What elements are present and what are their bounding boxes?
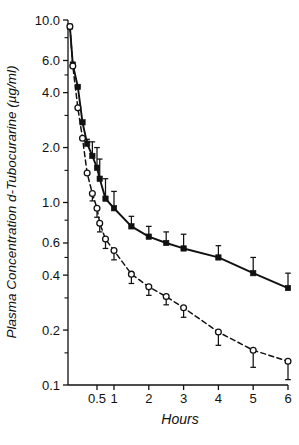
- data-point-marker: [90, 153, 95, 158]
- y-tick-label: 0.2: [42, 323, 60, 338]
- data-point-marker: [103, 236, 109, 242]
- data-point-marker: [181, 305, 187, 311]
- data-point-marker: [94, 205, 100, 211]
- x-tick-label: 0.5: [88, 391, 106, 406]
- data-point-marker: [89, 191, 95, 197]
- y-tick-label: 0.6: [42, 235, 60, 250]
- y-tick-label: 0.1: [42, 378, 60, 393]
- data-point-marker: [75, 105, 81, 111]
- data-point-marker: [216, 255, 221, 260]
- data-point-marker: [84, 141, 89, 146]
- data-point-marker: [250, 347, 256, 353]
- y-tick-label: 2.0: [42, 140, 60, 155]
- x-tick-label: 3: [180, 391, 187, 406]
- y-tick-label: 6.0: [42, 53, 60, 68]
- x-axis-title: Hours: [161, 411, 198, 427]
- x-tick-label: 6: [284, 391, 291, 406]
- x-tick-label: 1: [110, 391, 117, 406]
- data-point-marker: [97, 176, 102, 181]
- data-point-marker: [67, 24, 73, 30]
- data-point-marker: [80, 135, 86, 141]
- data-point-marker: [111, 206, 116, 211]
- data-point-marker: [181, 246, 186, 251]
- x-tick-label: 2: [145, 391, 152, 406]
- y-tick-label: 0.4: [42, 268, 60, 283]
- y-axis-title: Plasma Concentration d-Tubocurarine (µg/…: [4, 65, 19, 338]
- data-point-marker: [129, 271, 135, 277]
- data-point-marker: [163, 294, 169, 300]
- y-tick-label: 1.0: [42, 195, 60, 210]
- y-tick-label: 10.0: [35, 13, 60, 28]
- data-point-marker: [285, 285, 290, 290]
- x-tick-label: 5: [250, 391, 257, 406]
- data-point-marker: [103, 196, 108, 201]
- data-point-marker: [164, 240, 169, 245]
- y-tick-label: 4.0: [42, 85, 60, 100]
- data-point-marker: [70, 63, 76, 69]
- data-point-marker: [285, 358, 291, 364]
- data-point-marker: [94, 165, 99, 170]
- plasma-concentration-chart: 10.06.04.02.01.00.60.40.20.1 0.5123456 P…: [0, 0, 299, 445]
- data-point-marker: [216, 329, 222, 335]
- data-point-marker: [146, 284, 152, 290]
- data-point-marker: [129, 224, 134, 229]
- data-point-marker: [251, 270, 256, 275]
- data-point-marker: [84, 170, 90, 176]
- data-point-marker: [97, 220, 103, 226]
- data-point-marker: [111, 248, 117, 254]
- data-point-marker: [146, 234, 151, 239]
- x-tick-label: 4: [215, 391, 222, 406]
